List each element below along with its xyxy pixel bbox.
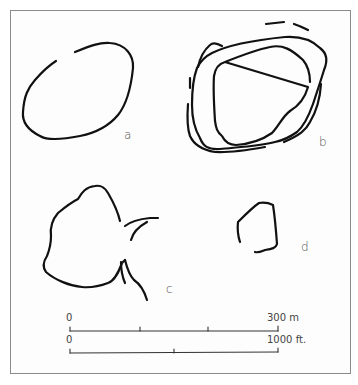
panel-label-d: d bbox=[301, 241, 309, 253]
scale-bar-imperial bbox=[70, 348, 278, 353]
outline-drawings bbox=[0, 0, 358, 385]
outline-d bbox=[238, 203, 277, 253]
outline-b bbox=[187, 22, 326, 152]
outline-a bbox=[23, 43, 133, 139]
scale-bar-metric bbox=[70, 326, 278, 331]
scale-metric-end: 300 m bbox=[267, 313, 299, 323]
outline-c bbox=[44, 186, 158, 300]
scale-metric-start: 0 bbox=[66, 313, 72, 323]
scale-imperial-start: 0 bbox=[66, 335, 72, 345]
panel-label-b: b bbox=[319, 136, 327, 148]
panel-label-a: a bbox=[124, 129, 131, 141]
panel-label-c: c bbox=[166, 283, 173, 295]
scale-imperial-end: 1000 ft. bbox=[267, 335, 306, 345]
